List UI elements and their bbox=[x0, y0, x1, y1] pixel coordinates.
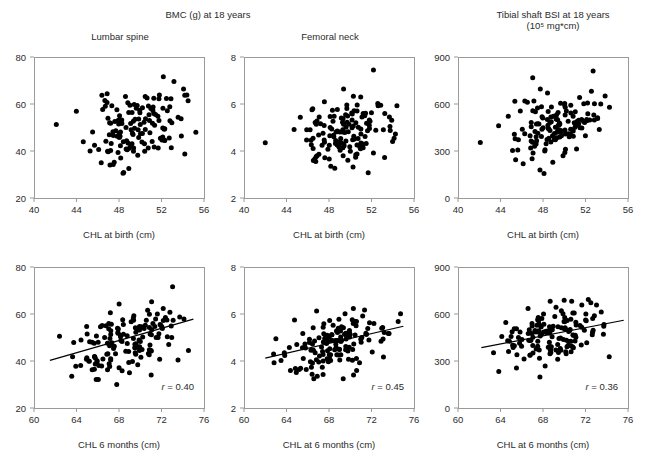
x-tick-label: 48 bbox=[114, 204, 125, 215]
scatter-points bbox=[478, 69, 612, 176]
data-point bbox=[301, 356, 306, 361]
data-point bbox=[515, 147, 520, 152]
data-point bbox=[147, 312, 152, 317]
data-point bbox=[574, 322, 579, 327]
data-point bbox=[548, 350, 553, 355]
data-point bbox=[309, 142, 314, 147]
data-point bbox=[126, 360, 131, 365]
data-point bbox=[311, 136, 316, 141]
data-point bbox=[329, 332, 334, 337]
data-point bbox=[84, 357, 89, 362]
data-point bbox=[171, 318, 176, 323]
data-point bbox=[176, 358, 181, 363]
data-point bbox=[109, 322, 114, 327]
data-point bbox=[338, 334, 343, 339]
data-point bbox=[566, 339, 571, 344]
data-point bbox=[158, 136, 163, 141]
data-point bbox=[516, 137, 521, 142]
data-point bbox=[381, 336, 386, 341]
x-tick-label: 40 bbox=[453, 204, 464, 215]
data-point bbox=[331, 323, 336, 328]
data-point bbox=[165, 334, 170, 339]
data-point bbox=[162, 138, 167, 143]
data-point bbox=[357, 145, 362, 150]
data-point bbox=[129, 319, 134, 324]
data-point bbox=[351, 94, 356, 99]
y-tick-label: 6 bbox=[231, 309, 236, 320]
data-point bbox=[263, 140, 268, 145]
x-tick-label: 76 bbox=[409, 414, 420, 425]
x-tick-label: 72 bbox=[156, 414, 167, 425]
data-point bbox=[136, 127, 141, 132]
data-point bbox=[169, 335, 174, 340]
y-tick-label: 0 bbox=[445, 403, 450, 414]
data-point bbox=[530, 156, 535, 161]
data-point bbox=[312, 157, 317, 162]
panel-title-lumbar-spine: Lumbar spine bbox=[40, 31, 200, 42]
data-point bbox=[351, 134, 356, 139]
data-point bbox=[116, 150, 121, 155]
x-tick-label: 52 bbox=[366, 204, 377, 215]
data-point bbox=[315, 374, 320, 379]
data-point bbox=[102, 335, 107, 340]
data-point bbox=[363, 134, 368, 139]
data-point bbox=[382, 111, 387, 116]
data-point bbox=[193, 130, 198, 135]
data-point bbox=[336, 326, 341, 331]
scatter-svg-tibial-birth: 40444852560300600900 bbox=[428, 51, 636, 218]
data-point bbox=[152, 324, 157, 329]
data-point bbox=[577, 95, 582, 100]
data-point bbox=[294, 342, 299, 347]
data-point bbox=[186, 98, 191, 103]
data-point bbox=[341, 153, 346, 158]
data-point bbox=[522, 356, 527, 361]
correlation-label: r = 0.40 bbox=[162, 381, 195, 392]
data-point bbox=[123, 349, 128, 354]
data-point bbox=[143, 127, 148, 132]
data-point bbox=[583, 133, 588, 138]
scatter-panel-lumbar-birth: 404448525620406080 bbox=[4, 51, 212, 218]
data-point bbox=[528, 353, 533, 358]
data-point bbox=[579, 343, 584, 348]
data-point bbox=[327, 318, 332, 323]
data-point bbox=[360, 313, 365, 318]
data-point bbox=[146, 104, 151, 109]
data-point bbox=[123, 94, 128, 99]
data-point bbox=[164, 96, 169, 101]
data-point bbox=[556, 110, 561, 115]
data-point bbox=[531, 98, 536, 103]
data-point bbox=[350, 111, 355, 116]
data-point bbox=[534, 134, 539, 139]
data-point bbox=[309, 365, 314, 370]
data-point bbox=[540, 116, 545, 121]
data-point bbox=[590, 316, 595, 321]
data-point bbox=[152, 123, 157, 128]
data-point bbox=[561, 153, 566, 158]
data-point bbox=[309, 107, 314, 112]
data-point bbox=[535, 329, 540, 334]
data-point bbox=[371, 321, 376, 326]
data-point bbox=[169, 145, 174, 150]
data-point bbox=[589, 89, 594, 94]
group-title-tibial: Tibial shaft BSI at 18 years (10⁵ mg*cm) bbox=[458, 9, 648, 31]
data-point bbox=[340, 145, 345, 150]
y-tick-label: 8 bbox=[231, 52, 236, 63]
data-point bbox=[559, 325, 564, 330]
data-point bbox=[351, 341, 356, 346]
data-point bbox=[356, 136, 361, 141]
data-point bbox=[79, 337, 84, 342]
data-point bbox=[512, 99, 517, 104]
data-point bbox=[478, 140, 483, 145]
data-point bbox=[579, 302, 584, 307]
data-point bbox=[92, 367, 97, 372]
data-point bbox=[354, 368, 359, 373]
data-point bbox=[171, 79, 176, 84]
data-point bbox=[106, 326, 111, 331]
data-point bbox=[347, 144, 352, 149]
data-point bbox=[530, 321, 535, 326]
data-point bbox=[337, 347, 342, 352]
scatter-svg-tibial-6mo: 60646872760300600900r = 0.36 bbox=[428, 261, 636, 428]
scatter-panel-tibial-6mo: 60646872760300600900r = 0.36 bbox=[428, 261, 636, 428]
scatter-svg-femoral-6mo: 60646872762468r = 0.45 bbox=[214, 261, 422, 428]
panel-title-femoral-neck-text: Femoral neck bbox=[301, 31, 359, 42]
